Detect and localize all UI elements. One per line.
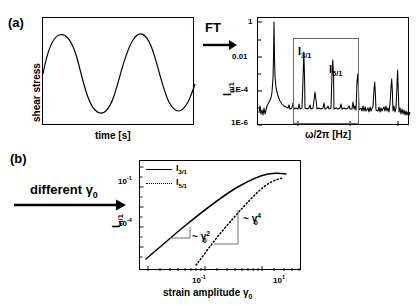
spectrum-peak-i3-subscript: 3/1 xyxy=(301,51,311,60)
intensity-xtick-10e1-exponent: 1 xyxy=(282,274,285,280)
ft-operator-label: FT xyxy=(205,21,221,34)
intensity-xtick-10e1-mantissa: 10 xyxy=(273,276,282,285)
ft-right-arrow-icon xyxy=(203,39,237,51)
spectrum-peak-i5-subscript: 5/1 xyxy=(332,69,342,78)
intensity-ytick-10e-4: 10-4 xyxy=(118,218,132,228)
different-gamma-label: different γ0 xyxy=(30,183,98,199)
different-gamma-text: different xyxy=(30,182,86,197)
waveform-curve xyxy=(43,18,195,126)
spectrum-ytick-1: 1 xyxy=(248,18,252,26)
slope-annotation-gamma-fourth: ~ γ40 xyxy=(243,213,258,227)
spectrum-peak-label-i3: I3/1 xyxy=(298,46,311,60)
intensity-x-axis-text: strain amplitude xyxy=(163,287,243,298)
legend-line-dotted-icon xyxy=(146,183,172,184)
different-gamma-right-arrow-icon xyxy=(14,199,126,211)
legend-item-i3: I3/1 xyxy=(146,164,187,175)
waveform-x-axis-title: time [s] xyxy=(95,131,131,141)
intensity-ytick-10e-1: 10-1 xyxy=(118,176,132,186)
legend-label-i5: I5/1 xyxy=(176,178,187,189)
panel-label-a: (a) xyxy=(8,16,24,29)
spectrum-x-axis-title: ω/2π [Hz] xyxy=(305,130,351,140)
spectrum-ytick-0-01: 0.01 xyxy=(232,53,248,61)
intensity-legend: I3/1 I5/1 xyxy=(146,164,187,189)
slope-gamma2-subscript: 0 xyxy=(203,237,207,244)
slope-gamma4-subscript: 0 xyxy=(254,219,258,226)
slope-annotation-gamma-squared: ~ γ20 xyxy=(192,231,207,245)
gamma-symbol: γ xyxy=(86,182,93,197)
intensity-ytick-10e-1-mantissa: 10 xyxy=(118,177,127,186)
slope-gamma4-prefix: ~ xyxy=(243,213,252,224)
slope-gamma4-exponent: 4 xyxy=(257,212,261,219)
spectrum-peak-label-i5: I5/1 xyxy=(329,64,342,78)
legend-line-solid-icon xyxy=(146,169,172,170)
intensity-xtick-10e-1: 10-1 xyxy=(192,275,206,285)
legend-i5-subscript: 5/1 xyxy=(179,182,188,189)
intensity-xtick-10e1: 101 xyxy=(273,275,285,285)
slope-gamma2-exponent: 2 xyxy=(206,230,210,237)
intensity-ytick-10e-4-mantissa: 10 xyxy=(118,219,127,228)
legend-item-i5: I5/1 xyxy=(146,178,187,189)
legend-i3-subscript: 3/1 xyxy=(179,168,188,175)
spectrum-ytick-1e-4: 1E-4 xyxy=(231,86,248,94)
slope-gamma2-prefix: ~ xyxy=(192,231,201,242)
intensity-ytick-10e-4-exponent: -4 xyxy=(127,217,132,223)
panel-label-b: (b) xyxy=(10,152,27,165)
intensity-x-axis-gamma-subscript: 0 xyxy=(249,293,253,300)
figure-root: (a) shear stress time [s] FT In/1 1 0.01… xyxy=(0,0,416,306)
waveform-y-axis-title: shear stress xyxy=(32,63,42,122)
waveform-plot-frame xyxy=(42,17,194,125)
intensity-xtick-10e-1-mantissa: 10 xyxy=(192,276,201,285)
spectrum-ytick-1e-6: 1E-6 xyxy=(231,119,248,127)
intensity-xtick-10e-1-exponent: -1 xyxy=(201,274,206,280)
legend-label-i3: I3/1 xyxy=(176,164,187,175)
intensity-x-axis-title: strain amplitude γ0 xyxy=(163,288,252,301)
intensity-ytick-10e-1-exponent: -1 xyxy=(127,175,132,181)
